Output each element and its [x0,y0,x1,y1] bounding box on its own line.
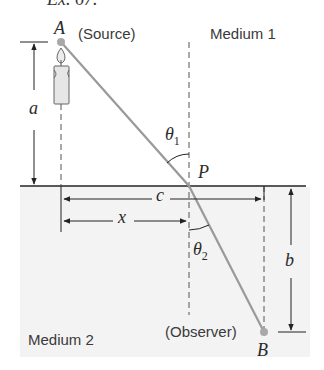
point-b-label: B [257,340,268,361]
medium2-label: Medium 2 [28,331,94,348]
dim-x-label: x [118,207,126,228]
source-label: (Source) [78,25,136,42]
dim-c-label: c [156,185,164,206]
point-a-dot [57,38,65,46]
theta1-label: θ1 [165,124,180,149]
dim-a-label: a [29,98,38,119]
point-a-label: A [54,18,65,39]
candle-icon [54,48,69,104]
point-p-label: P [198,162,209,183]
dim-b-label: b [285,250,294,271]
theta2-label: θ2 [193,239,208,264]
point-b-dot [260,328,268,336]
theta1-arc [167,154,189,163]
observer-label: (Observer) [165,323,237,340]
medium1-label: Medium 1 [210,25,276,42]
